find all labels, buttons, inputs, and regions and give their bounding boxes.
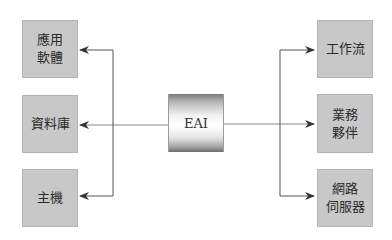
node-label: 網路 伺服器 bbox=[326, 180, 365, 216]
node-mainframe: 主機 bbox=[22, 169, 78, 227]
arrow-to-application-software bbox=[80, 50, 113, 125]
node-business-partners: 業務 夥伴 bbox=[317, 94, 373, 153]
arrow-to-mainframe bbox=[80, 125, 113, 196]
node-application-software: 應用 軟體 bbox=[22, 20, 78, 78]
node-label: 應用 軟體 bbox=[37, 31, 63, 67]
node-label: 業務 夥伴 bbox=[332, 106, 358, 142]
node-web-server: 網路 伺服器 bbox=[317, 169, 373, 227]
hub-label: EAI bbox=[184, 116, 208, 131]
arrow-to-workflow bbox=[280, 50, 314, 124]
eai-hub: EAI bbox=[168, 94, 224, 152]
node-label: 資料庫 bbox=[31, 115, 70, 133]
node-label: 主機 bbox=[37, 189, 63, 207]
eai-diagram: 應用 軟體 資料庫 主機 EAI 工作流 業務 夥伴 網路 伺服器 bbox=[0, 0, 392, 240]
node-label: 工作流 bbox=[326, 40, 365, 58]
node-database: 資料庫 bbox=[22, 95, 78, 153]
arrow-to-web-server bbox=[280, 124, 314, 196]
node-workflow: 工作流 bbox=[317, 20, 373, 78]
